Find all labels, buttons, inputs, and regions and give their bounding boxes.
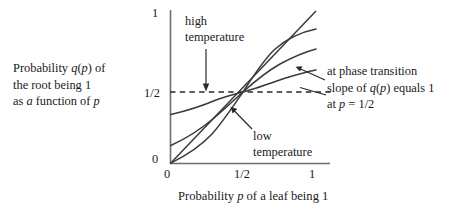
y-tick-label-0: 0 [152,151,158,167]
low-temperature-label: low temperature [253,128,312,160]
phase-transition-leader-line [300,88,326,96]
right-annotation: at phase transition slope of q(p) equals… [327,63,469,113]
left-caption-line-3: as a function of p [13,94,100,108]
x-tick-label-1: 1 [309,166,315,182]
high-temperature-label-line-1: high [185,14,207,28]
high-temperature-label-line-2: temperature [185,30,244,44]
high-temperature-label: high temperature [185,13,244,45]
low-temperature-arrow [231,107,253,129]
y-tick-label-half: 1/2 [144,85,160,101]
low-temperature-label-line-1: low [253,129,272,143]
low-temperature-label-line-2: temperature [253,145,312,159]
left-caption: Probability q(p) of the root being 1 as … [13,60,153,110]
high-temperature-arrow [203,49,209,92]
x-tick-label-0: 0 [164,166,170,182]
x-tick-label-half: 1/2 [234,166,250,182]
left-caption-line-1: Probability q(p) of [13,61,105,75]
figure-container: Probability q(p) of the root being 1 as … [0,0,471,213]
y-tick-label-1: 1 [152,5,158,21]
right-annotation-line-3: at p = 1/2 [327,97,374,111]
x-axis-title: Probability p of a leaf being 1 [178,188,328,205]
left-caption-line-2: the root being 1 [13,78,91,92]
right-annotation-line-2: slope of q(p) equals 1 [327,81,434,95]
right-annotation-line-1: at phase transition [327,64,417,78]
